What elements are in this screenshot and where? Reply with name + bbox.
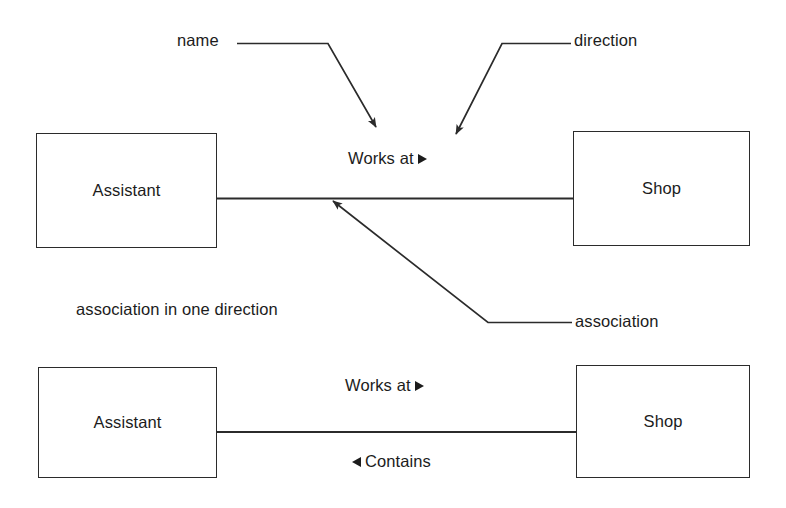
leader-line-association: [333, 201, 572, 323]
class-box-label: Shop: [642, 179, 681, 198]
diagram-caption: association in one direction: [76, 300, 278, 319]
association-name-text: Works at: [348, 149, 414, 168]
association-name-label-contains: Contains: [352, 452, 431, 471]
association-name-text: Contains: [365, 452, 431, 471]
direction-arrow-glyph: [418, 154, 427, 164]
class-box-assistant-lower[interactable]: Assistant: [38, 367, 217, 478]
class-box-label: Assistant: [94, 413, 162, 432]
class-box-label: Shop: [644, 412, 683, 431]
annotation-label-association: association: [575, 312, 659, 331]
direction-arrow-glyph-reverse: [352, 457, 361, 467]
association-name-label-works-at: Works at: [345, 376, 424, 395]
class-box-label: Assistant: [93, 181, 161, 200]
class-box-assistant-upper[interactable]: Assistant: [36, 133, 217, 248]
leader-line-name: [237, 44, 376, 128]
leader-line-direction: [456, 44, 571, 135]
association-name-label: Works at: [348, 149, 427, 168]
annotation-label-name: name: [177, 31, 219, 50]
association-name-text: Works at: [345, 376, 411, 395]
annotation-label-direction: direction: [574, 31, 637, 50]
class-box-shop-upper[interactable]: Shop: [573, 131, 750, 246]
class-box-shop-lower[interactable]: Shop: [576, 365, 750, 478]
direction-arrow-glyph: [415, 381, 424, 391]
